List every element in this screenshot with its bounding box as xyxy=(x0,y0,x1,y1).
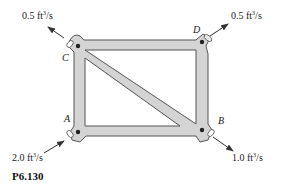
node-dot-b xyxy=(200,128,204,132)
flow-arrow-a xyxy=(44,141,64,153)
node-label-c: C xyxy=(62,52,69,63)
flow-label-d: 0.5 ft3/s xyxy=(231,10,262,21)
node-dot-a xyxy=(76,130,80,134)
node-label-d: D xyxy=(193,24,200,35)
node-dot-c xyxy=(76,44,80,48)
flow-label-c: 0.5 ft3/s xyxy=(22,10,53,21)
flow-arrow-d xyxy=(210,24,228,36)
node-label-a: A xyxy=(64,113,70,124)
pipe-network-figure: C D A B 0.5 ft3/s 0.5 ft3/s 2.0 ft3/s 1.… xyxy=(0,0,281,189)
node-label-b: B xyxy=(218,115,224,126)
flow-arrow-c xyxy=(48,27,64,38)
flow-arrow-b xyxy=(213,137,233,151)
flow-label-a: 2.0 ft3/s xyxy=(12,152,43,163)
figure-caption: P6.130 xyxy=(12,170,43,182)
pipe-frame xyxy=(68,34,212,142)
node-dot-d xyxy=(200,40,204,44)
flow-label-b: 1.0 ft3/s xyxy=(232,152,263,163)
